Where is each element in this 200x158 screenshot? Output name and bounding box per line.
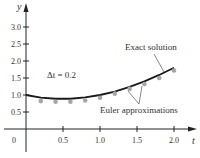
x-tick-label: 0 <box>12 136 16 145</box>
euler-point <box>113 91 118 96</box>
euler-point <box>172 68 177 73</box>
y-tick-label: 2.5 <box>11 40 21 49</box>
y-axis-arrow-icon <box>24 3 29 12</box>
euler-point <box>142 82 147 87</box>
x-tick-label: 2.0 <box>169 136 179 145</box>
euler-point <box>53 100 58 105</box>
exact-leader-line <box>154 54 164 72</box>
euler-point <box>68 100 73 105</box>
y-tick-label: 1.0 <box>11 91 21 100</box>
step-size-label: Δt = 0.2 <box>47 70 76 80</box>
euler-leader-line-2 <box>139 86 142 104</box>
axes: yt0.51.01.52.02.53.000.51.01.52.0 <box>4 1 197 152</box>
x-tick-label: 1.0 <box>95 136 105 145</box>
exact-solution-label: Exact solution <box>125 42 177 52</box>
y-tick-label: 1.5 <box>11 74 21 83</box>
x-axis-label: t <box>192 135 195 146</box>
euler-point <box>39 99 44 104</box>
euler-approximations-label: Euler approximations <box>100 105 178 115</box>
euler-point <box>98 95 103 100</box>
euler-point <box>127 87 132 92</box>
euler-point <box>157 76 162 81</box>
x-axis-arrow-icon <box>188 127 197 132</box>
euler-chart: yt0.51.01.52.02.53.000.51.01.52.0 Δt = 0… <box>0 0 200 158</box>
euler-leader-line-1 <box>128 91 139 104</box>
euler-point <box>83 98 88 103</box>
y-tick-label: 0.5 <box>11 108 21 117</box>
y-axis-label: y <box>16 1 22 12</box>
y-tick-label: 3.0 <box>11 23 21 32</box>
x-tick-label: 1.5 <box>132 136 142 145</box>
y-tick-label: 2.0 <box>11 57 21 66</box>
x-tick-label: 0.5 <box>58 136 68 145</box>
